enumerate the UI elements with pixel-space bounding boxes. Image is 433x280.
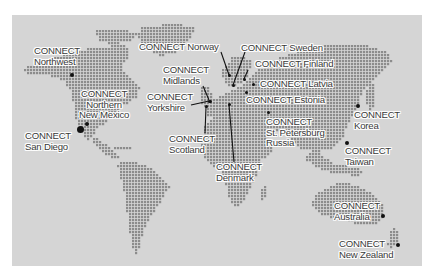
location-label-yorkshire[interactable]: CONNECT Yorkshire <box>147 92 193 113</box>
location-marker-korea[interactable] <box>356 104 360 108</box>
label-line: CONNECT <box>147 92 193 103</box>
location-label-sweden[interactable]: CONNECT Sweden <box>241 43 323 54</box>
label-line: Russia <box>266 138 325 149</box>
label-line: CONNECT <box>79 89 129 100</box>
label-line: CONNECT <box>266 117 325 128</box>
label-line: CONNECT Sweden <box>241 43 323 54</box>
location-marker-scotland[interactable] <box>205 105 208 108</box>
label-line: Yorkshire <box>147 103 193 114</box>
label-line: CONNECT <box>339 239 393 250</box>
label-line: CONNECT <box>216 162 262 173</box>
label-line: CONNECT <box>169 134 215 145</box>
location-label-korea[interactable]: CONNECT Korea <box>354 110 400 131</box>
label-line: CONNECT Finland <box>255 59 333 70</box>
location-marker-finland[interactable] <box>243 78 246 81</box>
label-line: CONNECT <box>163 65 209 76</box>
label-line: New Zealand <box>339 250 393 261</box>
location-label-australia[interactable]: CONNECT Australia <box>334 201 380 222</box>
location-label-taiwan[interactable]: CONNECT Taiwan <box>345 146 391 167</box>
location-marker-sweden[interactable] <box>232 84 235 87</box>
location-label-denmark[interactable]: CONNECT Denmark <box>216 162 262 183</box>
label-line: CONNECT <box>34 46 80 57</box>
label-line: CONNECT Latvia <box>260 79 333 90</box>
location-label-latvia[interactable]: CONNECT Latvia <box>260 79 333 90</box>
label-line: Scotland <box>169 145 215 156</box>
location-label-san-diego[interactable]: CONNECT San Diego <box>25 131 71 152</box>
label-line: New Mexico <box>79 110 129 121</box>
location-marker-st-petersburg-russia[interactable] <box>267 111 270 114</box>
location-marker-latvia[interactable] <box>252 83 255 86</box>
location-label-estonia[interactable]: CONNECT Estonia <box>246 95 325 106</box>
label-line: CONNECT <box>334 201 380 212</box>
label-line: San Diego <box>25 142 71 153</box>
label-line: Denmark <box>216 173 262 184</box>
label-line: CONNECT <box>25 131 71 142</box>
label-line: CONNECT Norway <box>139 42 219 53</box>
location-label-finland[interactable]: CONNECT Finland <box>255 59 333 70</box>
label-line: CONNECT Estonia <box>246 95 325 106</box>
location-label-northwest[interactable]: CONNECT Northwest <box>34 46 80 67</box>
location-marker-northwest[interactable] <box>70 73 74 77</box>
label-line: CONNECT <box>345 146 391 157</box>
location-label-st-petersburg-russia[interactable]: CONNECT St. Petersburg Russia <box>266 117 325 149</box>
label-line: Northwest <box>34 57 80 68</box>
location-label-midlands[interactable]: CONNECT Midlands <box>163 65 209 86</box>
label-line: Taiwan <box>345 157 391 168</box>
location-marker-australia[interactable] <box>381 214 385 218</box>
location-label-norway[interactable]: CONNECT Norway <box>139 42 219 53</box>
location-label-northern-new-mexico[interactable]: CONNECT Northern New Mexico <box>79 89 129 121</box>
location-marker-san-diego[interactable] <box>77 126 84 133</box>
label-line: CONNECT <box>354 110 400 121</box>
label-line: Midlands <box>163 76 209 87</box>
location-marker-northern-new-mexico[interactable] <box>85 122 89 126</box>
label-line: Australia <box>334 212 380 223</box>
location-label-scotland[interactable]: CONNECT Scotland <box>169 134 215 155</box>
location-label-new-zealand[interactable]: CONNECT New Zealand <box>339 239 393 260</box>
location-marker-yorkshire[interactable] <box>209 100 212 103</box>
label-line: Korea <box>354 121 400 132</box>
location-marker-norway[interactable] <box>228 74 231 77</box>
location-marker-denmark[interactable] <box>228 103 231 106</box>
location-marker-new-zealand[interactable] <box>396 243 400 247</box>
